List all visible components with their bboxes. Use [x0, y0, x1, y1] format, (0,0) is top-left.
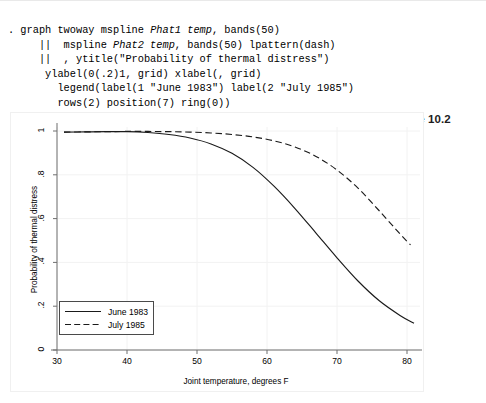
command-line-4: ylabel(0(.2)1, grid) xlabel(, grid) — [8, 67, 261, 82]
y-tick-.6: .6 — [36, 208, 46, 228]
legend[interactable]: June 1983 July 1985 — [59, 301, 154, 335]
x-tick-70: 70 — [324, 356, 350, 366]
x-tick-60: 60 — [254, 356, 280, 366]
legend-key-solid — [64, 306, 102, 317]
y-tick-.4: .4 — [36, 251, 46, 271]
command-line-2: || mspline Phat2 temp, bands(50) lpatter… — [8, 38, 336, 53]
graph-panel: Probability of thermal distress Joint te… — [10, 112, 424, 392]
y-tick-.2: .2 — [36, 295, 46, 315]
y-tick-.8: .8 — [36, 164, 46, 184]
y-tick-0: 0 — [36, 339, 46, 359]
curve-1 — [64, 132, 414, 324]
command-line-6: rows(2) position(7) ring(0)) — [8, 96, 230, 111]
legend-label-june: June 1983 — [108, 307, 148, 317]
x-axis-title: Joint temperature, degrees F — [91, 377, 381, 386]
plot-canvas — [11, 113, 423, 391]
legend-label-july: July 1985 — [108, 320, 145, 330]
x-tick-50: 50 — [184, 356, 210, 366]
command-line-1: . graph twoway mspline Phat1 temp, bands… — [8, 23, 280, 38]
stata-command-console: . graph twoway mspline Phat1 temp, bands… — [0, 0, 486, 104]
x-tick-80: 80 — [394, 356, 420, 366]
data-curves — [64, 131, 414, 323]
command-line-5: legend(label(1 "June 1983") label(2 "Jul… — [8, 81, 354, 96]
y-tick-1: 1 — [36, 120, 46, 140]
command-line-3: || , ytitle("Probability of thermal dist… — [8, 52, 329, 67]
legend-row-july[interactable]: July 1985 — [64, 318, 148, 331]
legend-key-dashed — [64, 319, 102, 330]
curve-2 — [64, 131, 411, 244]
x-tick-40: 40 — [114, 356, 140, 366]
x-tick-30: 30 — [44, 356, 70, 366]
legend-row-june[interactable]: June 1983 — [64, 305, 148, 318]
